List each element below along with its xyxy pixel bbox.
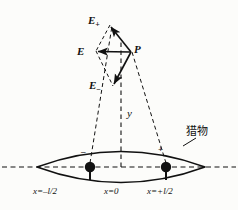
- label-prey: 猎物: [186, 126, 208, 137]
- label-charge-minus-sign: –: [81, 147, 86, 156]
- label-point-p: P: [134, 44, 141, 55]
- label-e-resultant-base: E: [77, 45, 84, 57]
- prey-leader-line: [183, 138, 196, 146]
- ray-minus-charge-to-p: [90, 26, 112, 163]
- label-e-plus-sub: +: [95, 20, 100, 29]
- label-e-minus: E−: [89, 80, 101, 94]
- figure-canvas: [0, 0, 238, 210]
- label-y-distance: y: [127, 108, 132, 119]
- vector-e-minus: [114, 52, 131, 84]
- axis-label-x-neg-half-l: x=–l/2: [33, 187, 57, 196]
- label-e-plus: E+: [88, 15, 100, 29]
- charge-minus-dot: [85, 162, 95, 172]
- label-e-resultant: E: [77, 46, 84, 57]
- axis-label-x-pos-half-l: x=+l/2: [147, 187, 173, 196]
- label-e-minus-sub: −: [96, 85, 101, 94]
- charge-plus-dot: [161, 162, 171, 172]
- axis-label-x-zero: x=0: [104, 187, 119, 196]
- dipole-field-figure: E+ E E− P y 猎物 – + x=–l/2 x=0 x=+l/2: [0, 0, 238, 210]
- label-charge-plus-sign: +: [158, 145, 163, 154]
- vector-e-plus: [111, 27, 131, 52]
- vector-e-resultant: [98, 52, 131, 53]
